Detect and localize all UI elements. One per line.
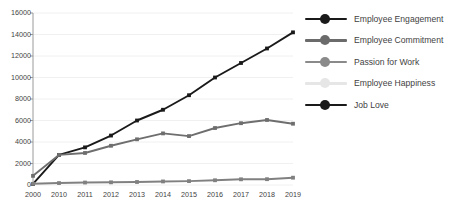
legend-label: Employee Commitment (347, 35, 443, 45)
legend-label: Passion for Work (347, 57, 419, 67)
legend-dot (320, 14, 330, 24)
legend-marker-icon (305, 76, 347, 90)
legend-marker-icon (305, 12, 347, 26)
legend-dot (320, 100, 330, 110)
legend-item[interactable]: Passion for Work (305, 51, 461, 73)
legend-marker-icon (305, 98, 347, 112)
legend-label: Employee Happiness (347, 78, 435, 88)
legend-dot (320, 78, 330, 88)
x-axis-tick-labels: 2000201020112012201320142015201620172018… (0, 0, 300, 214)
x-tick-label: 2019 (278, 191, 308, 199)
legend-item[interactable]: Employee Engagement (305, 8, 461, 30)
legend-dot (320, 35, 330, 45)
plot-area: 0200040006000800010000120001400016000 20… (0, 0, 300, 214)
legend-label: Employee Engagement (347, 14, 443, 24)
line-chart: 0200040006000800010000120001400016000 20… (0, 0, 461, 214)
chart-legend: Employee EngagementEmployee CommitmentPa… (305, 8, 461, 116)
legend-marker-icon (305, 55, 347, 69)
legend-label: Job Love (347, 100, 389, 110)
legend-item[interactable]: Job Love (305, 94, 461, 116)
legend-dot (320, 57, 330, 67)
legend-item[interactable]: Employee Commitment (305, 30, 461, 52)
legend-item[interactable]: Employee Happiness (305, 73, 461, 95)
legend-marker-icon (305, 33, 347, 47)
